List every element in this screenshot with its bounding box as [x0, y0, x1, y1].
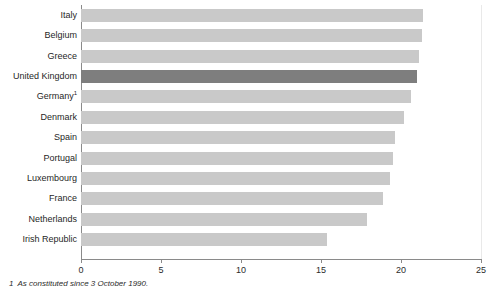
category-label-belgium: Belgium [44, 29, 77, 42]
bar-spain [81, 131, 395, 144]
tick-10 [241, 259, 242, 263]
gridline-25 [481, 5, 482, 259]
category-label-portugal: Portugal [43, 152, 77, 165]
tick-15 [321, 259, 322, 263]
category-label-italy: Italy [60, 9, 77, 22]
tick-label-15: 15 [316, 265, 326, 275]
tick-label-5: 5 [158, 265, 163, 275]
tick-20 [401, 259, 402, 263]
tick-label-25: 25 [476, 265, 486, 275]
footnote-ref: 1 [74, 90, 77, 96]
tick-25 [481, 259, 482, 263]
bar-irish-republic [81, 233, 327, 246]
category-label-spain: Spain [54, 131, 77, 144]
bar-belgium [81, 29, 422, 42]
x-axis-line [81, 259, 482, 260]
bar-italy [81, 9, 423, 22]
bar-luxembourg [81, 172, 390, 185]
category-label-netherlands: Netherlands [28, 213, 77, 226]
bar-france [81, 192, 383, 205]
category-label-denmark: Denmark [40, 111, 77, 124]
bar-chart: 0510152025 1As constituted since 3 Octob… [0, 0, 493, 293]
bar-portugal [81, 152, 393, 165]
footnote-text: As constituted since 3 October 1990. [17, 279, 148, 288]
bar-denmark [81, 111, 404, 124]
bar-netherlands [81, 213, 367, 226]
tick-label-10: 10 [236, 265, 246, 275]
tick-label-20: 20 [396, 265, 406, 275]
bar-germany [81, 90, 411, 103]
footnote-marker: 1 [9, 279, 13, 288]
footnote: 1As constituted since 3 October 1990. [9, 279, 148, 288]
category-label-greece: Greece [47, 50, 77, 63]
category-label-germany: Germany1 [37, 90, 77, 103]
category-label-united-kingdom: United Kingdom [13, 70, 77, 83]
category-label-france: France [49, 192, 77, 205]
gridline-20 [401, 5, 402, 259]
bar-greece [81, 50, 419, 63]
tick-5 [161, 259, 162, 263]
category-label-luxembourg: Luxembourg [27, 172, 77, 185]
tick-label-0: 0 [78, 265, 83, 275]
bar-united-kingdom [81, 70, 417, 83]
category-label-irish-republic: Irish Republic [22, 233, 77, 246]
tick-0 [81, 259, 82, 263]
